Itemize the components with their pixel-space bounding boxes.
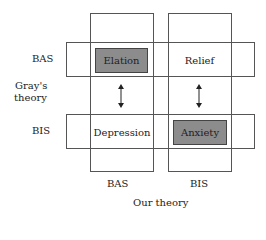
vertical-axis-title-line2: theory [14, 92, 47, 104]
column-label-bas: BAS [107, 178, 128, 190]
row-label-bis: BIS [32, 125, 50, 137]
row-label-bas: BAS [32, 53, 53, 65]
vertical-axis-title-line1: Gray's [15, 80, 47, 92]
cell-anxiety: Anxiety [173, 120, 227, 145]
cell-elation: Elation [95, 48, 148, 73]
horizontal-axis-title: Our theory [133, 197, 188, 209]
double-arrow-icon [117, 84, 125, 108]
column-label-bis: BIS [190, 178, 208, 190]
cell-depression: Depression [91, 120, 153, 145]
double-arrow-icon [195, 84, 203, 108]
cell-relief: Relief [173, 48, 226, 73]
